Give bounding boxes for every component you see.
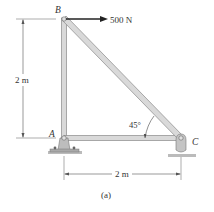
angle-arc (145, 116, 154, 138)
load-label: 500 N (110, 15, 133, 25)
member-AC (64, 136, 181, 141)
joint-label-B: B (55, 5, 61, 15)
joint-label-A: A (48, 129, 55, 139)
figure-caption: (a) (101, 190, 111, 200)
member-AB (62, 18, 67, 139)
vertical-dimension-label: 2 m (15, 75, 29, 85)
load-arrow-icon (66, 16, 108, 22)
pin-C (179, 136, 183, 140)
joint-label-C: C (192, 137, 199, 147)
pin-B (62, 17, 66, 21)
member-BC (62, 16, 183, 140)
angle-label: 45° (129, 120, 141, 130)
horizontal-dimension-label: 2 m (115, 169, 129, 179)
truss-diagram: 2 m 2 m 500 N (0, 0, 214, 212)
pin-A (62, 136, 66, 140)
